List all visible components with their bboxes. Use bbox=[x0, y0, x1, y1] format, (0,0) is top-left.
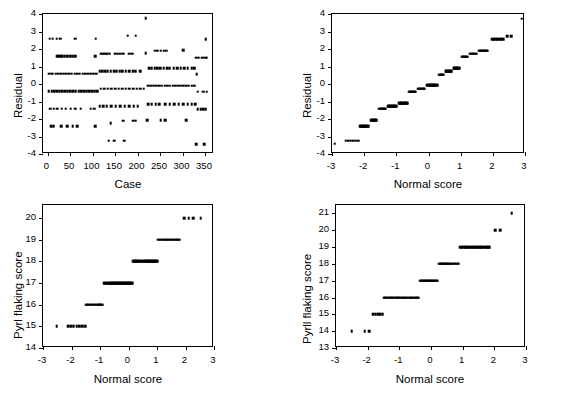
data-point bbox=[151, 103, 154, 106]
panel-residual-vs-case: Residual Case -4-3-2-1012340501001502002… bbox=[0, 0, 283, 196]
data-point bbox=[128, 105, 131, 108]
data-point bbox=[113, 140, 116, 143]
y-tick bbox=[39, 326, 43, 327]
data-point bbox=[423, 87, 426, 90]
data-point bbox=[122, 53, 125, 56]
y-tick-label: 0 bbox=[303, 78, 325, 88]
x-tick-label: 1 bbox=[153, 355, 158, 365]
y-tick-label: 3 bbox=[14, 26, 36, 36]
data-point bbox=[52, 37, 55, 40]
data-point bbox=[158, 103, 161, 106]
data-point bbox=[193, 67, 196, 70]
data-point bbox=[154, 103, 157, 106]
data-point bbox=[205, 38, 208, 41]
data-point bbox=[173, 103, 176, 106]
x-tick bbox=[157, 346, 158, 350]
data-point bbox=[200, 217, 203, 220]
data-point bbox=[159, 67, 162, 70]
data-point bbox=[442, 73, 445, 76]
y-tick-label: 20 bbox=[307, 224, 329, 234]
x-tick-label: 0 bbox=[125, 355, 130, 365]
data-point bbox=[169, 103, 172, 106]
y-tick bbox=[39, 305, 43, 306]
data-point bbox=[59, 37, 62, 40]
data-point bbox=[193, 84, 196, 87]
y-tick bbox=[332, 281, 336, 282]
data-point bbox=[51, 72, 54, 75]
data-point bbox=[351, 330, 354, 333]
data-point bbox=[458, 263, 461, 266]
data-point bbox=[107, 88, 110, 91]
data-point bbox=[179, 238, 182, 241]
data-point bbox=[165, 49, 168, 52]
data-point bbox=[66, 125, 69, 128]
data-point bbox=[84, 325, 87, 328]
y-tick bbox=[39, 84, 43, 85]
x-tick-label: 0 bbox=[425, 161, 430, 171]
x-tick bbox=[336, 346, 337, 350]
plot-frame bbox=[335, 204, 525, 347]
data-point bbox=[144, 17, 147, 20]
x-tick bbox=[214, 346, 215, 350]
y-tick-label: 16 bbox=[307, 292, 329, 302]
x-tick-label: -3 bbox=[327, 161, 335, 171]
y-tick bbox=[39, 49, 43, 50]
plot-frame bbox=[42, 204, 213, 347]
data-point bbox=[183, 217, 186, 220]
data-point bbox=[178, 103, 181, 106]
y-tick-label: -4 bbox=[303, 148, 325, 158]
x-tick-label: 250 bbox=[151, 161, 167, 171]
data-point bbox=[489, 246, 492, 249]
data-point bbox=[94, 37, 97, 40]
data-point bbox=[475, 53, 478, 56]
data-point bbox=[499, 229, 502, 232]
data-point bbox=[520, 18, 523, 21]
x-tick bbox=[129, 346, 130, 350]
data-point bbox=[60, 125, 63, 128]
data-point bbox=[185, 119, 188, 122]
x-tick-label: -2 bbox=[66, 355, 74, 365]
data-point bbox=[117, 88, 120, 91]
y-tick-label: -3 bbox=[303, 131, 325, 141]
y-tick bbox=[39, 119, 43, 120]
data-point bbox=[95, 72, 98, 75]
y-tick-label: 19 bbox=[14, 234, 36, 244]
x-tick bbox=[525, 152, 526, 156]
x-tick-label: 200 bbox=[129, 161, 145, 171]
y-tick bbox=[39, 67, 43, 68]
x-tick bbox=[100, 346, 101, 350]
data-point bbox=[510, 35, 513, 38]
y-tick bbox=[328, 32, 332, 33]
data-point bbox=[367, 125, 370, 128]
x-tick bbox=[186, 346, 187, 350]
data-point bbox=[197, 91, 200, 94]
data-point bbox=[93, 108, 96, 111]
y-tick-label: 4 bbox=[303, 8, 325, 18]
data-point bbox=[139, 88, 142, 91]
data-point bbox=[121, 70, 124, 73]
y-tick bbox=[332, 298, 336, 299]
data-point bbox=[109, 70, 112, 73]
data-point bbox=[502, 38, 505, 41]
data-point bbox=[203, 143, 206, 146]
data-point bbox=[187, 217, 190, 220]
y-tick-label: 13 bbox=[307, 342, 329, 352]
data-point bbox=[179, 67, 182, 70]
y-tick-label: 4 bbox=[14, 8, 36, 18]
data-point bbox=[458, 67, 461, 70]
data-point bbox=[494, 229, 497, 232]
data-point bbox=[187, 67, 190, 70]
x-tick bbox=[461, 152, 462, 156]
data-point bbox=[55, 37, 58, 40]
x-tick-label: 350 bbox=[196, 161, 212, 171]
data-point bbox=[122, 119, 125, 122]
data-point bbox=[110, 105, 113, 108]
x-axis-label: Normal score bbox=[396, 373, 464, 385]
data-point bbox=[160, 119, 163, 122]
data-point bbox=[506, 35, 509, 38]
data-point bbox=[94, 55, 97, 58]
data-point bbox=[162, 67, 165, 70]
data-point bbox=[124, 105, 127, 108]
plot-frame bbox=[42, 13, 213, 153]
data-point bbox=[125, 88, 128, 91]
